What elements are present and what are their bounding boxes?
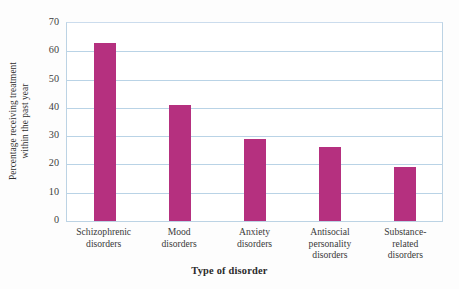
x-axis-title: Type of disorder <box>0 265 459 276</box>
x-category-substance-line-3: disorders <box>388 249 423 260</box>
y-axis-tick-labels: 70 60 50 40 30 20 10 0 <box>30 0 63 289</box>
x-category-mood: Mood disorders <box>141 226 216 270</box>
x-category-antisocial-line-3: disorders <box>312 249 347 260</box>
x-category-mood-line-2: disorders <box>162 238 197 249</box>
bar-chart-figure: Percentage receiving treatment within th… <box>0 0 459 289</box>
y-axis-title-text: Percentage receiving treatment within th… <box>8 62 31 180</box>
bar-slot-schizophrenic <box>67 23 142 221</box>
x-category-substance: Substance- related disorders <box>368 226 443 270</box>
y-tick-40: 40 <box>49 102 59 112</box>
bar-slot-antisocial <box>292 23 367 221</box>
y-tick-70: 70 <box>49 17 59 27</box>
x-category-schizophrenic: Schizophrenic disorders <box>66 226 141 270</box>
x-category-substance-line-1: Substance- <box>384 226 426 237</box>
bar-slot-mood <box>142 23 217 221</box>
y-tick-50: 50 <box>49 73 59 83</box>
bar-slot-substance <box>367 23 442 221</box>
x-category-mood-line-1: Mood <box>168 226 191 237</box>
x-category-antisocial-line-2: personality <box>309 238 352 249</box>
x-category-substance-line-2: related <box>392 238 418 249</box>
x-category-anxiety-line-2: disorders <box>237 238 272 249</box>
y-tick-10: 10 <box>49 187 59 197</box>
x-category-antisocial-line-1: Antisocial <box>310 226 349 237</box>
y-tick-60: 60 <box>49 45 59 55</box>
y-axis-title-line-1: Percentage receiving treatment <box>8 62 18 180</box>
x-category-antisocial: Antisocial personality disorders <box>292 226 367 270</box>
y-tick-30: 30 <box>49 130 59 140</box>
bar-antisocial-personality-disorders <box>319 147 341 221</box>
x-category-schizophrenic-line-1: Schizophrenic <box>76 226 131 237</box>
bar-schizophrenic-disorders <box>94 43 116 221</box>
y-axis-title-line-2: within the past year <box>19 83 29 158</box>
y-tick-0: 0 <box>54 215 59 225</box>
x-category-anxiety-line-1: Anxiety <box>239 226 270 237</box>
x-category-anxiety: Anxiety disorders <box>217 226 292 270</box>
plot-area <box>66 22 443 222</box>
bar-slot-anxiety <box>217 23 292 221</box>
bar-substance-related-disorders <box>394 167 416 221</box>
bar-mood-disorders <box>169 105 191 221</box>
bar-anxiety-disorders <box>244 139 266 221</box>
bar-series <box>67 23 442 221</box>
y-tick-20: 20 <box>49 158 59 168</box>
x-category-schizophrenic-line-2: disorders <box>86 238 121 249</box>
x-axis-category-labels: Schizophrenic disorders Mood disorders A… <box>66 226 443 270</box>
